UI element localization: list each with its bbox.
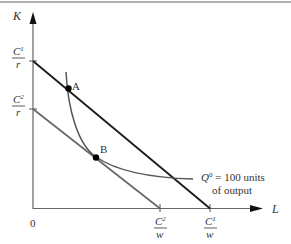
svg-text:Q0 = 100 units: Q0 = 100 units [201,171,265,183]
svg-text:C2: C2 [155,215,166,227]
svg-text:C2: C2 [13,93,24,105]
svg-text:C1: C1 [13,45,24,57]
isocost-line-c1 [33,61,210,209]
x-axis-arrow-icon [250,205,263,212]
y-tick-label-c1-over-r: C1 r [12,45,25,70]
x-tick-label-c2-over-w: C2 w [154,215,167,240]
isocost-isoquant-diagram: K L 0 C1 r C2 r C2 w C1 w A B Q0 = [0,0,291,244]
x-axis-label: L [271,202,279,216]
point-a [65,85,71,91]
isoquant-curve [66,72,193,179]
y-axis-label: K [12,9,22,23]
isoquant-label: Q0 = 100 units of output [201,171,265,196]
svg-text:of output: of output [212,184,252,196]
point-b [93,154,99,160]
svg-text:w: w [206,228,214,240]
svg-text:C1: C1 [205,215,216,227]
y-tick-label-c2-over-r: C2 r [12,93,25,118]
origin-label: 0 [30,217,36,229]
point-b-label: B [100,143,107,155]
svg-text:w: w [156,228,164,240]
point-a-label: A [72,80,80,92]
svg-text:r: r [16,58,21,70]
svg-text:r: r [16,106,21,118]
y-axis-arrow-icon [30,12,37,24]
x-tick-label-c1-over-w: C1 w [204,215,217,240]
